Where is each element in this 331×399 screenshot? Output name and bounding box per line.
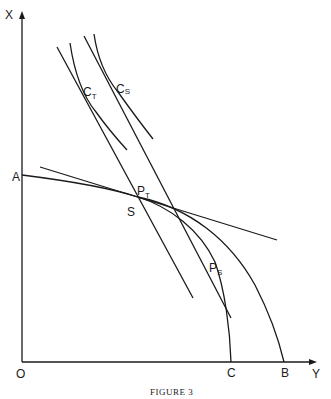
point-B-label: B (281, 366, 289, 380)
horizontal-axis-arrow-icon (309, 359, 317, 365)
price-line-S (84, 36, 231, 318)
indifference-curve-CT (70, 43, 127, 150)
point-A-label: A (12, 170, 20, 184)
horizontal-axis-label: Y (312, 367, 320, 381)
figure-caption: FIGURE 3 (150, 387, 193, 397)
origin-label: O (16, 367, 25, 381)
curve-CT-label: CT (83, 85, 97, 101)
axes (19, 11, 317, 365)
point-PS-label: PS (209, 261, 222, 277)
transformation-curve-AC (22, 175, 231, 362)
vertical-axis-arrow-icon (19, 11, 25, 19)
price-line-T (57, 47, 193, 298)
curve-CS-label: CS (116, 82, 130, 96)
figure-3: X Y O A C B S PT PS CT CS FIGURE 3 (0, 0, 331, 399)
point-PT-label: PT (137, 184, 150, 200)
point-S-label: S (127, 205, 135, 219)
vertical-axis-label: X (5, 8, 13, 22)
point-C-label: C (227, 366, 236, 380)
